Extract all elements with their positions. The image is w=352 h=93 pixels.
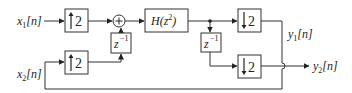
upsampler-factor: 2 [75, 14, 82, 29]
filter-label: H(z2) [150, 13, 176, 28]
input-x1-label: x1[n] [16, 14, 42, 30]
downsampler-factor: 2 [248, 60, 255, 75]
wire-upsampler-to-delay [88, 54, 121, 62]
filter-block: H(z2) [145, 9, 188, 32]
delay-exponent: −1 [120, 34, 129, 43]
adder-block [113, 15, 125, 27]
delay-base: z [113, 37, 119, 51]
wire-delay-to-downsampler [210, 52, 237, 66]
delay-left-block: z −1 [111, 33, 131, 53]
delay-exponent: −1 [210, 34, 219, 43]
input-x2-label: x2[n] [16, 67, 42, 83]
delay-right-block: z −1 [201, 33, 221, 52]
upsampler-factor: 2 [75, 56, 82, 71]
block-diagram: 2 2 z −1 H(z2) z −1 2 2 [0, 0, 352, 93]
delay-base: z [203, 37, 209, 51]
output-y1-label: y1[n] [287, 27, 313, 43]
downsampler-bottom-block: 2 [238, 55, 261, 78]
downsampler-top-block: 2 [238, 9, 261, 32]
output-y2-label: y2[n] [312, 59, 338, 75]
downsampler-factor: 2 [248, 14, 255, 29]
wire-y1-output [261, 21, 282, 63]
upsampler-bottom-block: 2 [65, 51, 88, 74]
upsampler-top-block: 2 [65, 9, 88, 32]
junction-dot [208, 19, 212, 23]
